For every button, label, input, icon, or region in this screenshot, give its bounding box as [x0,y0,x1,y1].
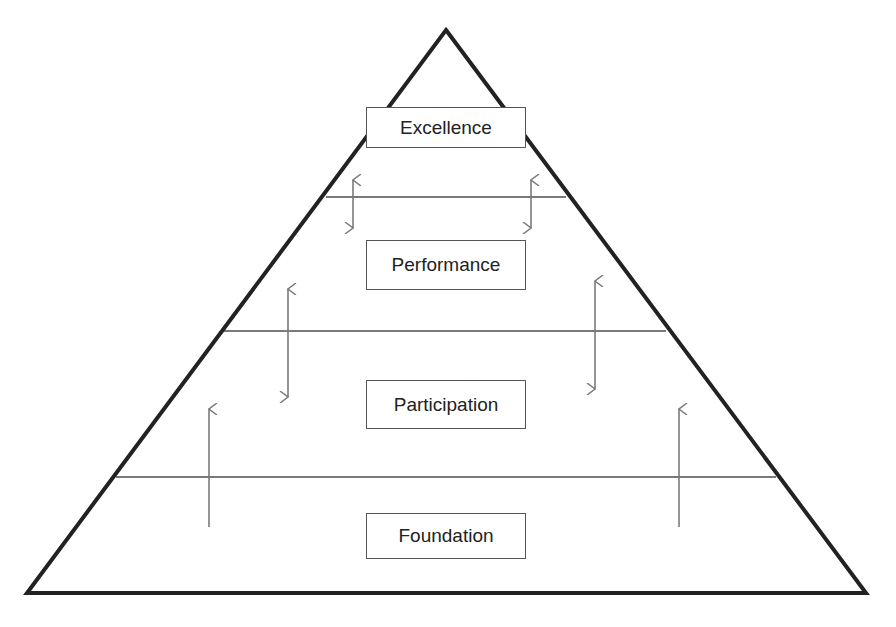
tier-label-performance: Performance [366,240,526,290]
tier-label-excellence: Excellence [366,107,526,148]
tier-label-foundation: Foundation [366,513,526,559]
tier-label-participation: Participation [366,380,526,429]
